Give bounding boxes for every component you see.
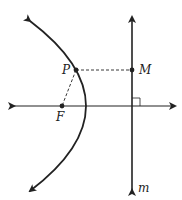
point-f bbox=[60, 104, 65, 109]
label-f: F bbox=[55, 110, 65, 124]
right-angle-marker bbox=[132, 98, 140, 106]
label-p: P bbox=[61, 63, 71, 77]
label-m: M bbox=[138, 63, 152, 77]
point-p bbox=[74, 68, 79, 73]
parabola-diagram: P M F m bbox=[0, 0, 182, 200]
label-m-directrix: m bbox=[138, 181, 149, 195]
point-m bbox=[130, 68, 135, 73]
